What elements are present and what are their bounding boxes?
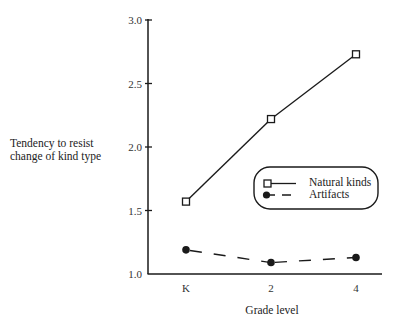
series-line-segment xyxy=(186,250,271,263)
y-tick-label: 1.0 xyxy=(128,268,142,280)
x-tick-label: 4 xyxy=(353,282,359,294)
open-square-marker-icon xyxy=(353,51,360,58)
y-axis-title: Tendency to resist change of kind type xyxy=(10,137,101,163)
y-axis-title-line-2: change of kind type xyxy=(10,150,101,163)
x-tick-label: 2 xyxy=(268,282,274,294)
y-tick-label: 1.5 xyxy=(128,205,142,217)
legend-label-artifacts: Artifacts xyxy=(309,188,350,200)
x-axis: K24 xyxy=(148,274,383,294)
y-axis: 1.01.52.02.53.0 xyxy=(128,14,152,280)
y-axis-title-line-1: Tendency to resist xyxy=(10,137,94,150)
open-square-marker-icon xyxy=(264,180,271,187)
open-square-marker-icon xyxy=(268,116,275,123)
line-chart: 1.01.52.02.53.0 K24 Tendency to resist c… xyxy=(0,0,394,329)
filled-circle-marker-icon xyxy=(352,254,360,262)
series-line-segment xyxy=(271,257,356,262)
data-series xyxy=(182,51,360,267)
filled-circle-marker-icon xyxy=(267,259,275,267)
y-tick-label: 2.5 xyxy=(128,78,142,90)
legend: Natural kinds Artifacts xyxy=(254,167,378,209)
series-artifacts xyxy=(182,246,360,266)
x-axis-title: Grade level xyxy=(245,304,298,316)
legend-label-natural-kinds: Natural kinds xyxy=(309,176,372,188)
x-tick-label: K xyxy=(182,282,190,294)
y-tick-label: 3.0 xyxy=(128,14,142,26)
open-square-marker-icon xyxy=(183,198,190,205)
filled-circle-marker-icon xyxy=(182,246,190,254)
y-tick-label: 2.0 xyxy=(128,141,142,153)
series-line-segment xyxy=(271,54,356,119)
